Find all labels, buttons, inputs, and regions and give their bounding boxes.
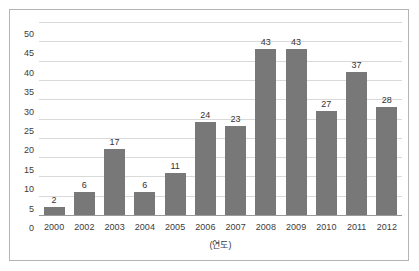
- y-tick-label: 50: [24, 30, 34, 39]
- bar-slot: 2: [39, 22, 69, 215]
- bar-slot: 27: [311, 22, 341, 215]
- bar-value-label: 2: [52, 196, 57, 205]
- bar-slot: 43: [251, 22, 281, 215]
- x-tick-label: 2003: [100, 220, 130, 234]
- bar[interactable]: [195, 122, 216, 215]
- x-tick-label: 2002: [69, 220, 99, 234]
- x-axis-tick-labels: 2000200220032004200520062007200820092010…: [39, 220, 402, 234]
- x-tick-label: 2011: [342, 220, 372, 234]
- bar[interactable]: [346, 72, 367, 215]
- bar-value-label: 11: [170, 162, 179, 171]
- bar[interactable]: [44, 207, 65, 215]
- bar[interactable]: [165, 173, 186, 215]
- bar-value-label: 27: [321, 100, 331, 109]
- bar-slot: 6: [69, 22, 99, 215]
- bar-slot: 43: [281, 22, 311, 215]
- bar[interactable]: [316, 111, 337, 215]
- y-tick-label: 25: [24, 127, 34, 136]
- bar[interactable]: [286, 49, 307, 215]
- bar-value-label: 37: [352, 61, 362, 70]
- x-tick-label: 2007: [221, 220, 251, 234]
- bar[interactable]: [134, 192, 155, 215]
- bar-slot: 23: [221, 22, 251, 215]
- y-tick-label: 10: [24, 185, 34, 194]
- y-axis-tick-labels: 50454035302520151050: [10, 22, 37, 215]
- y-tick-label: 40: [24, 68, 34, 77]
- bar-value-label: 24: [200, 111, 210, 120]
- x-tick-label: 2005: [160, 220, 190, 234]
- x-tick-label: 2010: [311, 220, 341, 234]
- bar-value-label: 23: [231, 115, 241, 124]
- x-tick-label: 2000: [39, 220, 69, 234]
- x-tick-label: 2012: [372, 220, 402, 234]
- bar-slot: 24: [190, 22, 220, 215]
- bar[interactable]: [104, 149, 125, 215]
- bar-value-label: 17: [110, 138, 120, 147]
- bar-value-label: 43: [261, 38, 271, 47]
- x-tick-label: 2006: [190, 220, 220, 234]
- bar-slot: 17: [100, 22, 130, 215]
- bar-chart-figure: 50454035302520151050 2617611242343432737…: [0, 0, 419, 271]
- bar[interactable]: [74, 192, 95, 215]
- x-tick-label: 2008: [251, 220, 281, 234]
- bar-value-label: 6: [82, 181, 87, 190]
- bar-slot: 11: [160, 22, 190, 215]
- y-tick-label: 35: [24, 88, 34, 97]
- y-tick-label: 0: [29, 224, 34, 233]
- x-tick-label: 2009: [281, 220, 311, 234]
- y-tick-label: 45: [24, 49, 34, 58]
- y-tick-label: 20: [24, 146, 34, 155]
- bar[interactable]: [376, 107, 397, 215]
- y-tick-label: 30: [24, 107, 34, 116]
- y-tick-label: 5: [29, 204, 34, 213]
- bar-slot: 37: [342, 22, 372, 215]
- axis-baseline: [39, 215, 402, 216]
- chart-frame: 50454035302520151050 2617611242343432737…: [9, 9, 409, 261]
- bar-slot: 6: [130, 22, 160, 215]
- bar-value-label: 6: [142, 181, 147, 190]
- bar[interactable]: [255, 49, 276, 215]
- bar-value-label: 43: [291, 38, 301, 47]
- y-tick-label: 15: [24, 165, 34, 174]
- bar[interactable]: [225, 126, 246, 215]
- x-tick-label: 2004: [130, 220, 160, 234]
- x-axis-title: (연도): [39, 241, 402, 250]
- plot-area: 261761124234343273728: [39, 22, 402, 215]
- bars-layer: 261761124234343273728: [39, 22, 402, 215]
- bar-slot: 28: [372, 22, 402, 215]
- bar-value-label: 28: [382, 96, 392, 105]
